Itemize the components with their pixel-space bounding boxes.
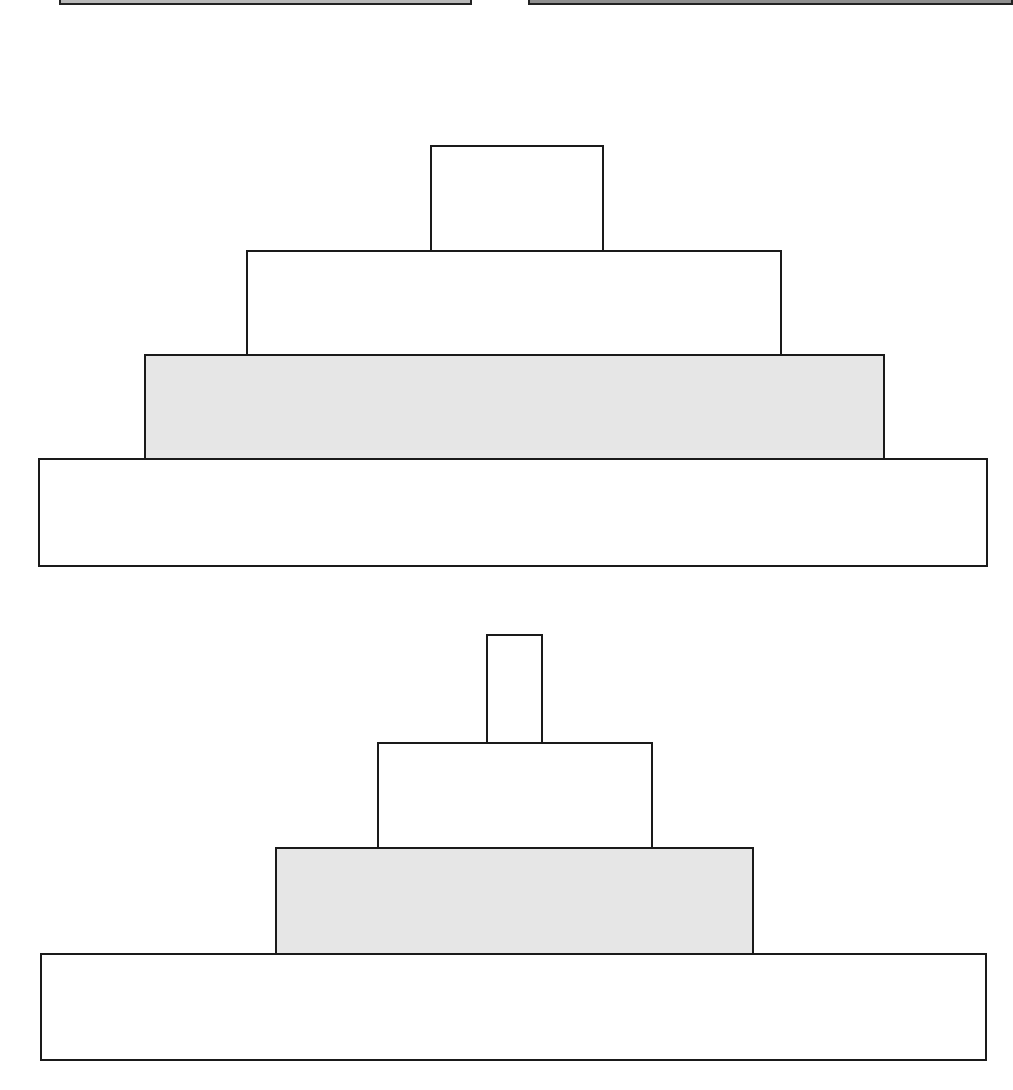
lower-pyramid-tier-4 [40, 953, 987, 1061]
lower-pyramid-tier-2 [377, 742, 653, 849]
lower-pyramid-tier-3 [275, 847, 754, 956]
top-strip-2 [528, 0, 1013, 5]
upper-pyramid-tier-1 [430, 145, 604, 252]
upper-pyramid-tier-3 [144, 354, 885, 461]
upper-pyramid-tier-4 [38, 458, 988, 567]
lower-pyramid-tier-1 [486, 634, 543, 744]
top-strip-1 [59, 0, 472, 5]
upper-pyramid-tier-2 [246, 250, 782, 356]
